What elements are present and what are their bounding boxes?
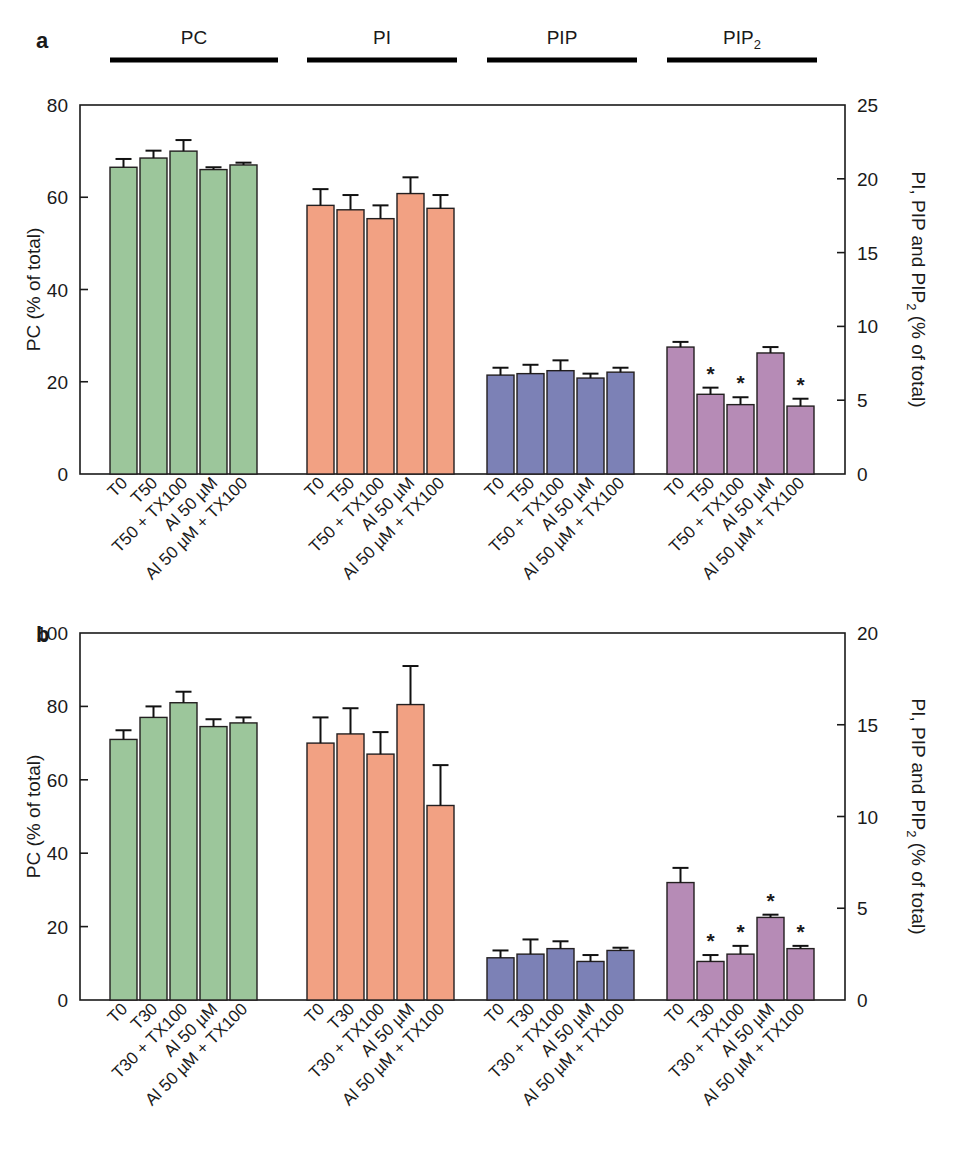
category-label: T0	[301, 999, 328, 1026]
bar	[487, 375, 514, 474]
bar	[517, 374, 544, 474]
significance-marker: *	[706, 362, 715, 385]
bar-group-pi	[307, 177, 454, 474]
bar	[427, 805, 454, 1000]
group-label-pip2: PIP2	[723, 27, 761, 52]
significance-marker: *	[736, 371, 745, 394]
bar	[577, 378, 604, 474]
bar	[397, 194, 424, 474]
right-tick-label: 15	[857, 715, 878, 736]
bar-group-pip2: ***	[667, 342, 814, 474]
category-label: T0	[301, 473, 328, 500]
right-tick-label: 10	[857, 316, 878, 337]
category-label: T0	[481, 999, 508, 1026]
category-label: T0	[104, 999, 131, 1026]
panel-a: aPCPIPIPPIP2020406080PC (% of total)0510…	[23, 27, 929, 583]
left-tick-label: 60	[47, 187, 68, 208]
left-axis-title: PC (% of total)	[23, 228, 44, 352]
bar	[337, 734, 364, 1000]
right-axis-title: PI, PIP and PIP2 (% of total)	[904, 698, 929, 934]
right-tick-label: 0	[857, 990, 868, 1011]
right-tick-label: 20	[857, 169, 878, 190]
significance-marker: *	[736, 920, 745, 943]
bar	[307, 743, 334, 1000]
significance-marker: *	[766, 889, 775, 912]
bar	[787, 406, 814, 474]
bar	[757, 353, 784, 474]
bar	[200, 727, 227, 1000]
left-tick-label: 40	[47, 280, 68, 301]
left-tick-label: 80	[47, 95, 68, 116]
bar	[607, 950, 634, 1000]
figure-root: aPCPIPIPPIP2020406080PC (% of total)0510…	[0, 0, 954, 1166]
bar	[517, 954, 544, 1000]
category-label: T0	[481, 473, 508, 500]
left-tick-label: 0	[57, 990, 68, 1011]
panel-letter-a: a	[36, 28, 49, 53]
bar	[337, 210, 364, 474]
bar	[230, 723, 257, 1000]
left-tick-label: 100	[36, 623, 68, 644]
bar-group-pc	[110, 140, 257, 474]
bar	[547, 949, 574, 1000]
bar	[667, 347, 694, 474]
bar	[787, 949, 814, 1000]
bar	[307, 205, 334, 474]
bar	[170, 151, 197, 474]
right-tick-label: 5	[857, 390, 868, 411]
bar	[140, 158, 167, 474]
right-tick-label: 5	[857, 898, 868, 919]
right-tick-label: 15	[857, 243, 878, 264]
left-tick-label: 40	[47, 843, 68, 864]
bar-group-pip	[487, 360, 634, 474]
bar	[200, 170, 227, 474]
bar	[727, 405, 754, 474]
bar	[397, 705, 424, 1000]
left-tick-label: 20	[47, 917, 68, 938]
group-label-pip: PIP	[547, 27, 578, 48]
bar	[697, 961, 724, 1000]
significance-marker: *	[706, 929, 715, 952]
bar	[547, 371, 574, 474]
panel-b: b020406080100PC (% of total)05101520PI, …	[23, 622, 929, 1109]
bar	[427, 208, 454, 474]
left-tick-label: 80	[47, 696, 68, 717]
group-label-pi: PI	[373, 27, 391, 48]
bar	[487, 958, 514, 1000]
bar	[607, 372, 634, 474]
bar	[230, 165, 257, 474]
bar	[667, 883, 694, 1000]
bar	[367, 754, 394, 1000]
right-tick-label: 0	[857, 464, 868, 485]
bar	[757, 917, 784, 1000]
bar-group-pi	[307, 666, 454, 1000]
bar	[727, 954, 754, 1000]
category-label: T0	[661, 473, 688, 500]
right-tick-label: 20	[857, 623, 878, 644]
significance-marker: *	[796, 373, 805, 396]
figure-svg: aPCPIPIPPIP2020406080PC (% of total)0510…	[0, 0, 954, 1166]
category-label: T0	[661, 999, 688, 1026]
bar	[577, 961, 604, 1000]
bar-group-pip2: ****	[667, 868, 814, 1000]
group-label-pc: PC	[181, 27, 207, 48]
bar-group-pc	[110, 692, 257, 1000]
right-tick-label: 25	[857, 95, 878, 116]
bar	[110, 167, 137, 474]
right-tick-label: 10	[857, 807, 878, 828]
bar	[110, 739, 137, 1000]
right-axis-title: PI, PIP and PIP2 (% of total)	[904, 171, 929, 407]
bar-group-pip	[487, 939, 634, 1000]
bar	[170, 703, 197, 1000]
category-label: T0	[104, 473, 131, 500]
bar	[697, 394, 724, 474]
left-tick-label: 0	[57, 464, 68, 485]
bar	[140, 717, 167, 1000]
left-axis-title: PC (% of total)	[23, 755, 44, 879]
left-tick-label: 20	[47, 372, 68, 393]
significance-marker: *	[796, 920, 805, 943]
bar	[367, 219, 394, 474]
left-tick-label: 60	[47, 770, 68, 791]
